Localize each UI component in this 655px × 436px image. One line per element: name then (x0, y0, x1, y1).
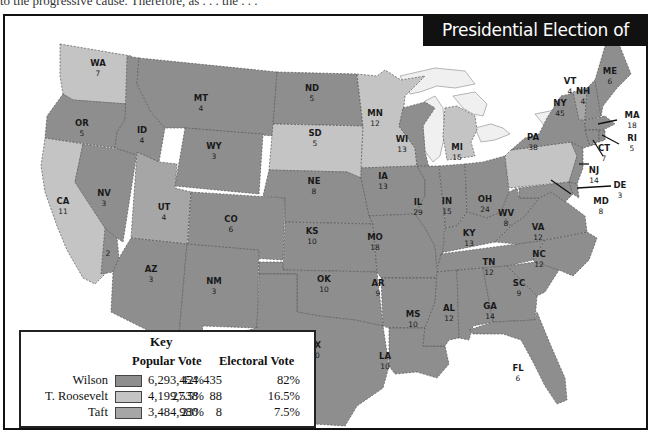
state-abbr: CT (598, 143, 610, 153)
electoral-pct: 7.5% (274, 405, 300, 420)
popular-pct: 23% (181, 405, 204, 420)
electoral-vote-count: 5 (80, 129, 85, 138)
state-abbr: AZ (145, 264, 158, 274)
electoral-vote-count: 12 (444, 314, 454, 323)
electoral-vote-count: 18 (627, 121, 637, 130)
state-abbr: ND (305, 83, 319, 93)
state-abbr: NC (532, 249, 545, 259)
electoral-vote-count: 4 (140, 136, 145, 145)
electoral-vote-count: 6 (516, 374, 521, 383)
electoral-vote-count: 8 (599, 207, 604, 216)
electoral-vote-count: 45 (555, 109, 565, 118)
key-row-roosevelt: T. Roosevelt 4,199,538 27.5% 88 16.5% (21, 389, 314, 405)
electoral-vote-count: 12 (533, 233, 543, 242)
state-abbr: VA (532, 222, 545, 232)
electoral-vote-count: 9 (376, 289, 381, 298)
electoral-pct: 82% (277, 373, 300, 388)
state-abbr: NV (97, 188, 111, 198)
electoral-vote-count: 6 (229, 225, 234, 234)
electoral-vote-count: 3 (212, 287, 217, 296)
electoral-vote-count: 4 (568, 87, 573, 96)
state-abbr: OK (317, 274, 331, 284)
state-abbr: NE (308, 176, 321, 186)
state-label-NJ: NJ14 (589, 165, 599, 185)
electoral-votes: 435 (205, 373, 224, 388)
popular-vote-header: Popular Vote (132, 354, 202, 369)
electoral-vote-count: 24 (480, 205, 490, 214)
electoral-vote-count: 6 (608, 77, 613, 86)
clipped-page-text: to the progressive cause. Therefore, as … (0, 0, 258, 9)
roosevelt-swatch (115, 391, 142, 403)
state-abbr: KS (306, 226, 319, 236)
electoral-vote-count: 14 (485, 312, 495, 321)
electoral-vote-count: 5 (630, 144, 635, 153)
popular-pct: 42% (181, 373, 204, 388)
state-label-CT: CT7 (598, 143, 610, 163)
state-abbr: NY (553, 98, 567, 108)
state-abbr: ID (137, 125, 147, 135)
key-title: Key (21, 334, 314, 350)
state-abbr: IA (378, 171, 388, 181)
electoral-vote-count: 10 (380, 362, 390, 371)
electoral-vote-count: 7 (96, 69, 101, 78)
electoral-vote-count: 4 (581, 97, 586, 106)
state-abbr: MI (451, 142, 463, 152)
map-frame: WA7OR5CA112NV3ID4MT4WY3UT4CO6AZ3NM3ND5SD… (3, 14, 648, 430)
electoral-vote-count: 4 (199, 104, 204, 113)
state-abbr: MA (624, 110, 639, 120)
state-abbr: LA (379, 351, 391, 361)
state-abbr: VT (564, 76, 577, 86)
electoral-vote-count: 3 (618, 191, 623, 200)
state-label-RI: RI5 (627, 133, 637, 153)
state-ND (273, 72, 363, 126)
electoral-vote-count: 8 (312, 187, 317, 196)
electoral-vote-count: 13 (397, 145, 407, 154)
state-label-DE: DE3 (614, 180, 627, 200)
state-abbr: UT (158, 202, 171, 212)
electoral-votes: 8 (218, 405, 224, 420)
state-KS (283, 222, 377, 272)
electoral-votes: 88 (212, 389, 225, 404)
electoral-vote-count: 12 (370, 119, 380, 128)
state-abbr: GA (483, 301, 497, 311)
electoral-vote-count: 3 (149, 275, 154, 284)
state-label-MA: MA18 (624, 110, 639, 130)
state-AZ (111, 238, 187, 336)
state-abbr: KY (463, 228, 477, 238)
state-abbr: DE (614, 180, 627, 190)
state-abbr: MT (194, 93, 208, 103)
electoral-vote-count: 10 (319, 285, 329, 294)
state-abbr: OH (478, 194, 492, 204)
key-row-taft: Taft 3,484,980 23% 8 7.5% (21, 405, 314, 421)
electoral-vote-count: 7 (602, 154, 607, 163)
state-NM (179, 244, 259, 336)
candidate-name: Wilson (72, 373, 108, 388)
candidate-name: Taft (88, 405, 108, 420)
electoral-vote-count: 4 (162, 213, 167, 222)
state-abbr: CA (57, 196, 70, 206)
state-WY (175, 128, 263, 194)
state-abbr: AL (443, 303, 456, 313)
electoral-vote-count: 12 (484, 268, 494, 277)
map-title: Presidential Election of 1912 (423, 14, 648, 46)
electoral-vote-count: 10 (408, 320, 418, 329)
electoral-vote-count: 38 (528, 143, 538, 152)
taft-swatch (115, 407, 142, 419)
electoral-vote-count: 3 (102, 199, 107, 208)
state-abbr: NM (206, 276, 222, 286)
electoral-vote-count: 11 (58, 207, 68, 216)
key-row-wilson: Wilson 6,293,454 42% 435 82% (21, 373, 314, 389)
state-abbr: CO (224, 214, 237, 224)
popular-pct: 27.5% (172, 389, 204, 404)
state-label-CA-split: 2 (106, 249, 111, 258)
electoral-vote-count: 15 (452, 153, 462, 162)
state-label-MD: MD8 (593, 196, 609, 216)
electoral-vote-header: Electoral Vote (219, 354, 294, 369)
electoral-vote-count: 29 (413, 208, 423, 217)
state-abbr: PA (527, 132, 539, 142)
electoral-vote-count: 5 (310, 94, 315, 103)
state-abbr: IL (414, 197, 423, 207)
state-abbr: SD (308, 128, 321, 138)
state-abbr: MO (367, 232, 383, 242)
electoral-vote-count: 8 (504, 219, 509, 228)
